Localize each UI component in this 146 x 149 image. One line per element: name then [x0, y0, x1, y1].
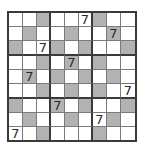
shaded-cell[interactable] — [93, 84, 107, 99]
shaded-cell[interactable]: 7 — [23, 70, 37, 84]
shaded-cell[interactable] — [37, 84, 51, 99]
cell[interactable] — [23, 99, 37, 113]
cell[interactable] — [23, 41, 37, 56]
shaded-cell[interactable] — [79, 70, 93, 84]
cell[interactable] — [37, 70, 51, 84]
shaded-cell[interactable] — [65, 113, 79, 127]
cell[interactable] — [121, 56, 135, 70]
shaded-cell[interactable] — [79, 99, 93, 113]
cell[interactable] — [107, 127, 121, 140]
cell[interactable] — [93, 70, 107, 84]
cell[interactable] — [51, 113, 65, 127]
shaded-cell[interactable]: 7 — [51, 99, 65, 113]
shaded-cell[interactable] — [93, 127, 107, 140]
shaded-cell[interactable] — [107, 113, 121, 127]
shaded-cell[interactable] — [65, 27, 79, 41]
shaded-cell[interactable] — [23, 113, 37, 127]
cell[interactable] — [9, 56, 23, 70]
cell[interactable] — [79, 113, 93, 127]
cell[interactable] — [121, 70, 135, 84]
cell[interactable] — [51, 13, 65, 27]
cell[interactable] — [51, 27, 65, 41]
cell[interactable] — [121, 127, 135, 140]
cell[interactable] — [121, 113, 135, 127]
cell[interactable] — [9, 84, 23, 99]
shaded-cell[interactable] — [121, 41, 135, 56]
cell[interactable]: 7 — [79, 13, 93, 27]
shaded-cell[interactable] — [93, 56, 107, 70]
cell[interactable] — [121, 27, 135, 41]
cell[interactable] — [65, 70, 79, 84]
shaded-cell[interactable]: 7 — [65, 56, 79, 70]
cell[interactable] — [93, 41, 107, 56]
shaded-cell[interactable] — [107, 70, 121, 84]
shaded-cell[interactable] — [37, 13, 51, 27]
cell[interactable] — [37, 113, 51, 127]
shaded-cell[interactable] — [37, 56, 51, 70]
shaded-cell[interactable] — [93, 13, 107, 27]
cell[interactable] — [79, 127, 93, 140]
cell[interactable] — [65, 127, 79, 140]
cell[interactable] — [23, 56, 37, 70]
cell[interactable] — [37, 99, 51, 113]
cell[interactable] — [23, 84, 37, 99]
cell[interactable] — [23, 13, 37, 27]
shaded-cell[interactable] — [121, 99, 135, 113]
cell[interactable] — [79, 84, 93, 99]
shaded-cell[interactable] — [51, 70, 65, 84]
cell[interactable] — [107, 56, 121, 70]
cell[interactable] — [37, 27, 51, 41]
cell[interactable] — [65, 99, 79, 113]
cell[interactable]: 7 — [93, 113, 107, 127]
cell[interactable] — [23, 127, 37, 140]
cell[interactable] — [9, 27, 23, 41]
cell[interactable] — [51, 127, 65, 140]
cell[interactable] — [9, 13, 23, 27]
cell[interactable] — [121, 13, 135, 27]
cell[interactable] — [93, 27, 107, 41]
shaded-cell[interactable] — [9, 41, 23, 56]
shaded-cell[interactable] — [79, 41, 93, 56]
shaded-cell[interactable] — [65, 84, 79, 99]
cell[interactable] — [79, 56, 93, 70]
cell[interactable] — [107, 84, 121, 99]
cell[interactable]: 7 — [9, 127, 23, 140]
shaded-cell[interactable] — [37, 127, 51, 140]
cell[interactable]: 7 — [121, 84, 135, 99]
cell[interactable]: 7 — [37, 41, 51, 56]
cell[interactable] — [107, 13, 121, 27]
cell[interactable] — [65, 41, 79, 56]
shaded-cell[interactable] — [9, 99, 23, 113]
cell[interactable] — [107, 41, 121, 56]
cell[interactable] — [51, 56, 65, 70]
cell[interactable] — [9, 70, 23, 84]
shaded-cell[interactable]: 7 — [107, 27, 121, 41]
cell[interactable] — [93, 99, 107, 113]
cell[interactable] — [79, 27, 93, 41]
shaded-cell[interactable] — [23, 27, 37, 41]
cell[interactable] — [51, 84, 65, 99]
shaded-cell[interactable] — [51, 41, 65, 56]
cell[interactable] — [65, 13, 79, 27]
cell[interactable] — [9, 113, 23, 127]
cell[interactable] — [107, 99, 121, 113]
puzzle-grid: 777777777 — [7, 11, 137, 142]
